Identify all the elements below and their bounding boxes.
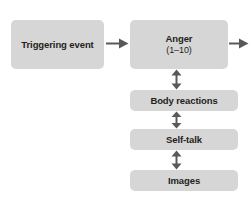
arrow-double-vertical-icon-selftalk-to-images xyxy=(169,150,184,170)
node-triggering-event[interactable]: Triggering event xyxy=(11,20,104,69)
node-triggering-event-label: Triggering event xyxy=(21,39,93,50)
node-images[interactable]: Images xyxy=(130,170,238,191)
node-anger-scale: (1–10) xyxy=(166,45,191,56)
arrow-right-icon-anger-outgoing xyxy=(229,38,249,49)
node-body-reactions[interactable]: Body reactions xyxy=(130,90,238,111)
arrow-double-vertical-icon-anger-to-body xyxy=(169,69,184,90)
arrow-right-icon-trigger-to-anger xyxy=(106,38,129,49)
node-anger-label: Anger xyxy=(166,33,193,44)
node-self-talk-label: Self-talk xyxy=(166,134,202,145)
node-anger[interactable]: Anger (1–10) xyxy=(130,20,228,69)
node-images-label: Images xyxy=(168,175,200,186)
arrow-double-vertical-icon-body-to-selftalk xyxy=(169,111,184,129)
node-body-reactions-label: Body reactions xyxy=(150,95,217,106)
diagram-canvas: Triggering event Anger (1–10) Body react… xyxy=(0,0,249,200)
node-self-talk[interactable]: Self-talk xyxy=(130,129,238,150)
